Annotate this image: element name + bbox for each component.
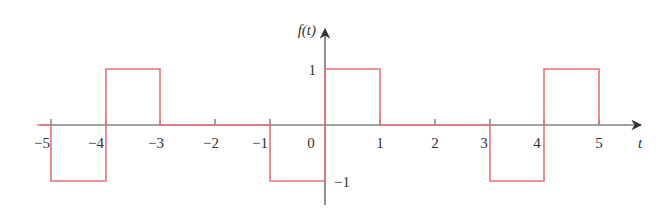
x-tick-label: −4 <box>88 135 104 151</box>
y-axis-label: f(t) <box>298 22 316 39</box>
x-tick-label: −2 <box>203 135 219 151</box>
x-tick-label: 0 <box>307 135 315 151</box>
signal-plot: −5 −4 −3 −2 −1 0 1 2 3 4 5 t f(t) 1 −1 <box>0 0 661 216</box>
x-tick-label: −5 <box>34 135 50 151</box>
y-tick-label-neg: −1 <box>334 174 350 190</box>
x-tick-label: −1 <box>252 135 268 151</box>
x-tick-label: 1 <box>376 135 384 151</box>
x-tick-label: 2 <box>431 135 439 151</box>
signal-figure: −5 −4 −3 −2 −1 0 1 2 3 4 5 t f(t) 1 −1 <box>0 0 661 216</box>
y-tick-label-pos: 1 <box>309 62 317 78</box>
x-tick-label: 4 <box>533 135 541 151</box>
x-tick-label: −3 <box>148 135 164 151</box>
x-axis-label: t <box>638 135 643 151</box>
x-tick-label: 5 <box>595 135 603 151</box>
x-tick-label: 3 <box>480 135 488 151</box>
